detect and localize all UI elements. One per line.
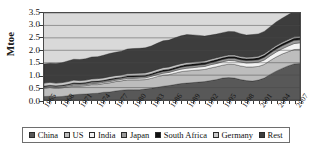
y-tick-mark xyxy=(39,63,43,64)
legend-label: Germany xyxy=(221,131,253,140)
x-tick-mark xyxy=(151,101,152,104)
x-tick-mark xyxy=(109,101,110,104)
y-tick-mark xyxy=(39,76,43,77)
legend-label: India xyxy=(98,131,115,140)
x-tick-mark xyxy=(169,101,170,104)
x-tick-mark xyxy=(115,101,116,104)
legend-label: Japan xyxy=(130,131,149,140)
legend-swatch-icon xyxy=(64,132,70,138)
x-tick-mark xyxy=(49,101,50,104)
y-tick-mark xyxy=(39,25,43,26)
y-tick-mark xyxy=(39,37,43,38)
legend-item-rest[interactable]: Rest xyxy=(259,131,283,140)
legend-swatch-icon xyxy=(89,132,95,138)
legend-item-japan[interactable]: Japan xyxy=(121,131,149,140)
legend-label: Rest xyxy=(268,131,283,140)
chart-legend: ChinaUSIndiaJapanSouth AfricaGermanyRest xyxy=(22,127,290,143)
x-tick-mark xyxy=(229,101,230,104)
x-tick-mark xyxy=(283,101,284,104)
legend-item-india[interactable]: India xyxy=(89,131,115,140)
x-tick-mark xyxy=(181,101,182,104)
x-tick-mark xyxy=(55,101,56,104)
x-tick-mark xyxy=(193,101,194,104)
x-tick-mark xyxy=(127,101,128,104)
x-tick-mark xyxy=(295,101,296,104)
x-tick-mark xyxy=(235,101,236,104)
y-tick-mark xyxy=(39,88,43,89)
x-axis-tick-labels: 1965196819711974197719801983198619891992… xyxy=(0,0,315,130)
legend-item-us[interactable]: US xyxy=(64,131,83,140)
x-tick-mark xyxy=(217,101,218,104)
chart-figure: Mtoe 0.00.51.01.52.02.53.03.5 1965196819… xyxy=(0,0,315,150)
x-tick-mark xyxy=(61,101,62,104)
x-tick-mark xyxy=(289,101,290,104)
x-tick-mark xyxy=(121,101,122,104)
x-tick-mark xyxy=(163,101,164,104)
x-tick-mark xyxy=(259,101,260,104)
legend-swatch-icon xyxy=(213,132,219,138)
legend-item-china[interactable]: China xyxy=(29,131,58,140)
x-tick-mark xyxy=(301,101,302,104)
legend-label: US xyxy=(73,131,84,140)
x-tick-mark xyxy=(199,101,200,104)
x-tick-mark xyxy=(85,101,86,104)
x-tick-mark xyxy=(157,101,158,104)
x-tick-mark xyxy=(67,101,68,104)
x-tick-mark xyxy=(133,101,134,104)
x-tick-mark xyxy=(175,101,176,104)
x-tick-mark xyxy=(103,101,104,104)
x-tick-mark xyxy=(277,101,278,104)
legend-label: China xyxy=(38,131,58,140)
x-tick-mark xyxy=(79,101,80,104)
x-tick-mark xyxy=(211,101,212,104)
x-tick-mark xyxy=(145,101,146,104)
x-tick-mark xyxy=(73,101,74,104)
legend-swatch-icon xyxy=(121,132,127,138)
x-tick-mark xyxy=(223,101,224,104)
x-tick-mark xyxy=(271,101,272,104)
x-tick-mark xyxy=(97,101,98,104)
x-tick-mark xyxy=(265,101,266,104)
x-tick-mark xyxy=(241,101,242,104)
x-tick-mark xyxy=(139,101,140,104)
y-tick-mark xyxy=(39,50,43,51)
x-tick-mark xyxy=(253,101,254,104)
legend-label: South Africa xyxy=(164,131,207,140)
legend-item-germany[interactable]: Germany xyxy=(213,131,253,140)
legend-item-south-africa[interactable]: South Africa xyxy=(155,131,207,140)
x-tick-mark xyxy=(247,101,248,104)
x-tick-mark xyxy=(43,101,44,104)
legend-swatch-icon xyxy=(29,132,35,138)
legend-swatch-icon xyxy=(155,132,161,138)
x-tick-mark xyxy=(91,101,92,104)
y-tick-mark xyxy=(39,12,43,13)
x-tick-mark xyxy=(187,101,188,104)
legend-swatch-icon xyxy=(259,132,265,138)
x-tick-mark xyxy=(205,101,206,104)
